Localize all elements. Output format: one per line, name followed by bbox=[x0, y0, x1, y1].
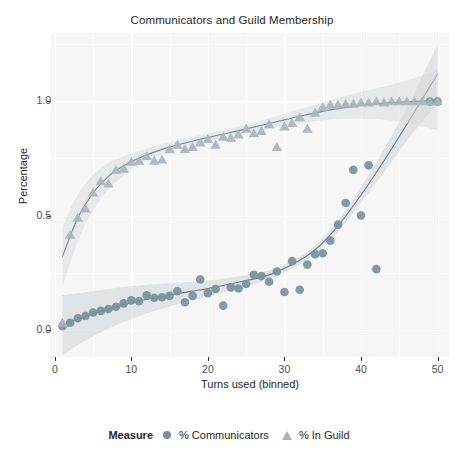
x-tick-mark bbox=[131, 357, 132, 361]
y-tick-label: 1.0 bbox=[11, 94, 51, 106]
data-point-circle bbox=[303, 260, 312, 269]
data-point-circle bbox=[211, 285, 220, 294]
data-point-circle bbox=[326, 236, 335, 245]
y-axis-title: Percentage bbox=[17, 131, 29, 221]
data-point-circle bbox=[311, 250, 320, 259]
data-point-circle bbox=[173, 287, 182, 296]
data-point-circle bbox=[250, 271, 259, 280]
data-point-circle bbox=[196, 275, 205, 284]
data-point-circle bbox=[334, 220, 343, 229]
data-point-triangle bbox=[302, 124, 313, 133]
x-tick-label: 0 bbox=[35, 363, 75, 375]
x-tick-mark bbox=[55, 357, 56, 361]
data-point-circle bbox=[265, 277, 274, 286]
data-point-circle bbox=[357, 211, 366, 220]
legend-entry-in-guild[interactable]: % In Guild bbox=[281, 428, 350, 441]
x-tick-label: 10 bbox=[111, 363, 151, 375]
chart-title: Communicators and Guild Membership bbox=[0, 14, 464, 26]
data-point-circle bbox=[89, 308, 98, 317]
data-point-circle bbox=[181, 298, 190, 307]
legend-entry-communicators[interactable]: % Communicators bbox=[161, 428, 269, 441]
data-point-circle bbox=[188, 292, 197, 301]
data-point-circle bbox=[135, 297, 144, 306]
data-point-circle bbox=[165, 292, 174, 301]
data-point-circle bbox=[219, 301, 228, 310]
x-tick-mark bbox=[361, 357, 362, 361]
data-point-circle bbox=[204, 289, 213, 298]
data-point-triangle bbox=[272, 142, 283, 151]
data-point-circle bbox=[295, 285, 304, 294]
data-point-circle bbox=[127, 296, 136, 305]
x-tick-label: 20 bbox=[188, 363, 228, 375]
data-point-circle bbox=[96, 307, 105, 316]
legend-title: Measure bbox=[108, 429, 153, 441]
data-point-circle bbox=[234, 284, 243, 293]
data-point-circle bbox=[158, 293, 167, 302]
data-point-circle bbox=[104, 305, 113, 314]
data-layer bbox=[51, 33, 449, 357]
data-point-circle bbox=[150, 293, 159, 302]
legend-label-in-guild: % In Guild bbox=[299, 429, 350, 441]
data-point-circle bbox=[288, 257, 297, 266]
y-tick-label: 0.0 bbox=[11, 323, 51, 335]
data-point-circle bbox=[119, 299, 128, 308]
data-point-circle bbox=[227, 283, 236, 292]
x-tick-mark bbox=[284, 357, 285, 361]
data-point-circle bbox=[280, 288, 289, 297]
data-point-circle bbox=[272, 267, 281, 276]
chart-legend: Measure % Communicators % In Guild bbox=[0, 428, 464, 441]
data-point-circle bbox=[242, 280, 251, 289]
x-tick-label: 40 bbox=[341, 363, 381, 375]
x-tick-mark bbox=[438, 357, 439, 361]
x-tick-label: 30 bbox=[264, 363, 304, 375]
x-axis-title: Turns used (binned) bbox=[51, 378, 449, 390]
data-point-circle bbox=[349, 166, 358, 175]
data-point-circle bbox=[318, 249, 327, 258]
x-tick-mark bbox=[208, 357, 209, 361]
data-point-circle bbox=[112, 303, 121, 312]
data-point-circle bbox=[372, 265, 381, 274]
data-point-circle bbox=[257, 272, 266, 281]
data-point-circle bbox=[73, 314, 82, 323]
chart-root: Communicators and Guild Membership 0.00.… bbox=[0, 0, 464, 455]
data-point-circle bbox=[364, 161, 373, 170]
data-point-circle bbox=[341, 199, 350, 208]
legend-label-communicators: % Communicators bbox=[179, 429, 269, 441]
data-point-circle bbox=[142, 291, 151, 300]
circle-marker-icon bbox=[161, 428, 174, 441]
plot-panel bbox=[51, 33, 449, 357]
triangle-marker-icon bbox=[281, 428, 294, 441]
x-tick-label: 50 bbox=[418, 363, 458, 375]
data-point-circle bbox=[81, 312, 90, 321]
